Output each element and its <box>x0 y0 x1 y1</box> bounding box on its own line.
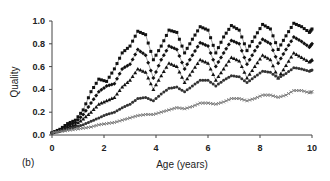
series-4-marker <box>266 70 269 73</box>
series-3-marker <box>242 70 246 74</box>
series-1-marker <box>134 35 137 38</box>
series-4-marker <box>170 86 173 89</box>
series-1-marker <box>108 76 111 79</box>
series-1-marker <box>105 80 108 83</box>
y-tick-label: 0.4 <box>32 84 45 94</box>
series-1-marker <box>227 28 230 31</box>
series-4-marker <box>251 77 254 80</box>
series-1-marker <box>204 27 207 30</box>
series-1-marker <box>207 29 210 32</box>
series-1-marker <box>295 23 298 26</box>
series-4-marker <box>303 68 306 71</box>
series-2-marker <box>248 58 252 62</box>
series-4-marker <box>305 69 308 72</box>
series-3-marker <box>159 74 163 78</box>
series-4-marker <box>155 97 158 100</box>
series-4-marker <box>194 83 197 86</box>
series-4-marker <box>201 79 204 82</box>
series-4-marker <box>105 113 108 116</box>
series-4-marker <box>168 87 171 90</box>
series-1-marker <box>126 47 129 50</box>
x-tick-label: 0 <box>49 143 54 153</box>
series-1-marker <box>214 51 217 54</box>
y-tick-label: 1.0 <box>32 16 45 26</box>
series-3-marker <box>149 82 153 86</box>
series-3-marker <box>261 53 265 57</box>
series-4-marker <box>92 119 95 122</box>
series-4-marker <box>139 97 142 100</box>
series-1-marker <box>285 34 288 37</box>
series-1-marker <box>259 27 262 30</box>
series-1-marker <box>230 24 233 27</box>
series-2-marker <box>227 43 231 47</box>
series-4-marker <box>178 87 181 90</box>
series-4-marker <box>108 112 111 115</box>
series-4-marker <box>144 96 147 99</box>
series-1-marker <box>277 48 280 51</box>
series-4-marker <box>126 104 129 107</box>
series-1-marker <box>217 46 220 49</box>
series-1-marker <box>238 29 241 32</box>
series-3-marker <box>292 51 296 55</box>
series-4-marker <box>82 123 85 126</box>
series-2-marker <box>224 47 228 51</box>
series-4-marker <box>277 77 280 80</box>
series-1-marker <box>136 30 139 33</box>
series-3-marker <box>151 87 155 91</box>
series-1-marker <box>311 27 314 30</box>
series-1-marker <box>248 45 251 48</box>
series-4-marker <box>129 103 132 106</box>
series-layer <box>50 22 314 135</box>
series-1-marker <box>165 34 168 37</box>
series-1-marker <box>243 42 246 45</box>
x-tick-label: 8 <box>257 143 262 153</box>
series-2-marker <box>188 58 192 62</box>
series-2-marker <box>157 64 161 68</box>
series-4-marker <box>287 70 290 73</box>
series-2-marker <box>180 60 184 64</box>
series-4-marker <box>123 105 126 108</box>
series-2-marker <box>177 54 181 58</box>
series-1-marker <box>149 50 152 53</box>
series-1-marker <box>162 39 165 42</box>
series-1-marker <box>233 26 236 29</box>
series-2-marker <box>245 62 249 66</box>
series-1-marker <box>199 25 202 28</box>
series-4-marker <box>196 81 199 84</box>
series-1-marker <box>290 26 293 29</box>
series-4-marker <box>261 70 264 73</box>
series-1-marker <box>113 67 116 70</box>
series-1-marker <box>194 34 197 37</box>
series-2-marker <box>196 45 200 49</box>
series-1-marker <box>170 29 173 32</box>
series-1-marker <box>256 31 259 34</box>
series-1-marker <box>90 90 93 93</box>
series-1-marker <box>100 78 103 81</box>
series-4-marker <box>160 92 163 95</box>
series-1-marker <box>279 43 282 46</box>
series-4-marker <box>149 98 152 101</box>
series-3-marker <box>211 73 215 77</box>
series-4-marker <box>233 75 236 78</box>
series-1-marker <box>95 82 98 85</box>
series-3-marker <box>274 70 278 74</box>
series-3-marker <box>198 58 202 62</box>
series-2-marker <box>242 55 246 59</box>
series-4-marker <box>300 67 303 70</box>
series-3-marker <box>162 70 166 74</box>
series-4-marker <box>274 75 277 78</box>
series-1-marker <box>186 47 189 50</box>
series-2-marker <box>240 49 244 53</box>
series-4-marker <box>238 75 241 78</box>
series-1-marker <box>253 35 256 38</box>
series-3-marker <box>180 75 184 79</box>
series-4-marker <box>220 81 223 84</box>
series-1-marker <box>251 40 254 43</box>
series-4-marker <box>253 75 256 78</box>
series-1-marker <box>303 27 306 30</box>
series-4-marker <box>269 71 272 74</box>
series-1-marker <box>152 58 155 61</box>
series-1-marker <box>183 51 186 54</box>
series-1-marker <box>196 29 199 32</box>
series-1-marker <box>274 41 277 44</box>
